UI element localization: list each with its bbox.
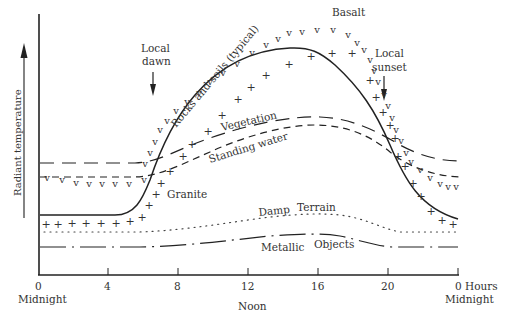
y-axis-label: Radiant temperature bbox=[12, 89, 23, 196]
svg-text:sunset: sunset bbox=[372, 61, 408, 73]
svg-text:v: v bbox=[380, 89, 387, 100]
svg-text:v: v bbox=[313, 24, 320, 35]
metallic-objects-curve bbox=[40, 234, 458, 247]
tick-16: 16 bbox=[311, 280, 325, 292]
damp-label: Damp bbox=[258, 203, 291, 218]
tick-0: 0 bbox=[35, 280, 42, 292]
svg-text:v: v bbox=[329, 24, 336, 35]
metallic-label: Metallic bbox=[261, 241, 305, 253]
svg-text:v: v bbox=[262, 39, 269, 50]
svg-text:+: + bbox=[385, 119, 394, 132]
svg-text:v: v bbox=[156, 124, 163, 135]
svg-text:+: + bbox=[246, 81, 255, 94]
terrain-label: Terrain bbox=[297, 201, 336, 213]
svg-text:+: + bbox=[416, 190, 425, 203]
svg-text:+: + bbox=[67, 217, 76, 230]
tick-12: 12 bbox=[241, 280, 254, 292]
svg-text:+: + bbox=[261, 69, 270, 82]
rocks-soils-label: Rocks and soils (typical) bbox=[168, 22, 260, 129]
damp-terrain-curve bbox=[44, 214, 458, 232]
svg-text:+: + bbox=[448, 218, 457, 231]
svg-text:+: + bbox=[203, 125, 212, 138]
svg-text:+: + bbox=[347, 47, 356, 60]
svg-text:v: v bbox=[58, 174, 65, 185]
svg-text:+: + bbox=[165, 165, 174, 178]
vegetation-label: Vegetation bbox=[219, 108, 278, 133]
svg-text:+: + bbox=[327, 47, 336, 60]
svg-text:v: v bbox=[274, 33, 281, 44]
granite-label: Granite bbox=[167, 188, 207, 200]
svg-text:+: + bbox=[178, 150, 187, 163]
svg-text:v: v bbox=[125, 178, 132, 189]
svg-text:v: v bbox=[452, 181, 459, 192]
svg-text:Local: Local bbox=[375, 47, 404, 59]
arrow-down-icon bbox=[150, 84, 156, 96]
svg-text:dawn: dawn bbox=[142, 55, 171, 67]
svg-text:+: + bbox=[284, 58, 293, 71]
basalt-label: Basalt bbox=[332, 6, 366, 18]
svg-text:v: v bbox=[248, 47, 255, 58]
tick-8: 8 bbox=[174, 280, 181, 292]
svg-text:+: + bbox=[371, 91, 380, 104]
granite-markers: +++ +++ +++ +++ +++ +++ +++ +++ +++ +++ … bbox=[41, 47, 457, 231]
diurnal-temperature-diagram: Radiant temperature 0 4 8 12 16 20 0 Hou… bbox=[0, 0, 506, 325]
svg-text:v: v bbox=[146, 147, 153, 158]
svg-text:v: v bbox=[85, 178, 92, 189]
svg-text:+: + bbox=[125, 215, 134, 228]
svg-text:v: v bbox=[374, 76, 381, 87]
svg-text:v: v bbox=[344, 29, 351, 40]
midnight-start-label: Midnight bbox=[18, 293, 67, 305]
svg-text:+: + bbox=[111, 217, 120, 230]
svg-text:+: + bbox=[437, 214, 446, 227]
svg-text:+: + bbox=[306, 50, 315, 63]
svg-text:v: v bbox=[98, 178, 105, 189]
svg-text:+: + bbox=[156, 177, 165, 190]
svg-text:+: + bbox=[426, 205, 435, 218]
svg-text:Local: Local bbox=[141, 42, 170, 54]
svg-text:v: v bbox=[141, 158, 148, 169]
svg-text:+: + bbox=[408, 177, 417, 190]
svg-text:+: + bbox=[187, 138, 196, 151]
svg-text:v: v bbox=[151, 136, 158, 147]
svg-text:+: + bbox=[390, 132, 399, 145]
svg-text:+: + bbox=[41, 218, 50, 231]
svg-text:+: + bbox=[81, 217, 90, 230]
svg-text:v: v bbox=[436, 178, 443, 189]
x-tick-labels: 0 4 8 12 16 20 0 Hours Midnight Noon Mid… bbox=[18, 280, 498, 312]
tick-20: 20 bbox=[381, 280, 394, 292]
midnight-end-label: Midnight bbox=[445, 293, 494, 305]
svg-text:v: v bbox=[140, 174, 147, 185]
tick-4: 4 bbox=[104, 280, 111, 292]
svg-text:+: + bbox=[137, 211, 146, 224]
svg-text:+: + bbox=[378, 106, 387, 119]
svg-text:v: v bbox=[416, 164, 423, 175]
svg-text:+: + bbox=[400, 160, 409, 173]
svg-text:+: + bbox=[365, 74, 374, 87]
svg-text:v: v bbox=[72, 177, 79, 188]
svg-text:v: v bbox=[285, 27, 292, 38]
svg-text:+: + bbox=[53, 218, 62, 231]
tick-end: 0 Hours bbox=[455, 280, 498, 292]
svg-text:+: + bbox=[233, 93, 242, 106]
svg-text:v: v bbox=[426, 172, 433, 183]
svg-text:v: v bbox=[111, 178, 118, 189]
svg-text:v: v bbox=[43, 172, 50, 183]
dawn-annotation: Local dawn bbox=[141, 42, 171, 96]
objects-label: Objects bbox=[314, 238, 354, 250]
noon-label: Noon bbox=[238, 300, 267, 312]
svg-text:v: v bbox=[298, 26, 305, 37]
svg-text:v: v bbox=[444, 181, 451, 192]
svg-text:v: v bbox=[366, 54, 373, 65]
svg-text:+: + bbox=[96, 217, 105, 230]
svg-text:v: v bbox=[360, 44, 367, 55]
